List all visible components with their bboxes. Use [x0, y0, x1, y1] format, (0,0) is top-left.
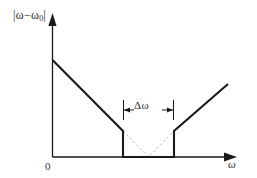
delta-omega-right-arrow-icon: [167, 107, 173, 112]
delta-omega-left-arrow-icon: [124, 107, 130, 112]
y-axis-arrowhead-icon: [48, 13, 56, 26]
y-axis-label-closing-bar: |: [43, 8, 46, 22]
origin-label: 0: [45, 161, 51, 172]
plot-canvas: [0, 0, 257, 178]
figure-container: |ω−ω0| ω 0 Δω: [0, 0, 257, 178]
delta-omega-label: Δω: [134, 100, 149, 111]
y-axis-label-main: |ω−ω: [13, 8, 39, 22]
y-axis-label: |ω−ω0|: [13, 9, 46, 23]
ideal-v-dashed-curve: [123, 131, 174, 157]
x-axis-label: ω: [228, 159, 236, 170]
